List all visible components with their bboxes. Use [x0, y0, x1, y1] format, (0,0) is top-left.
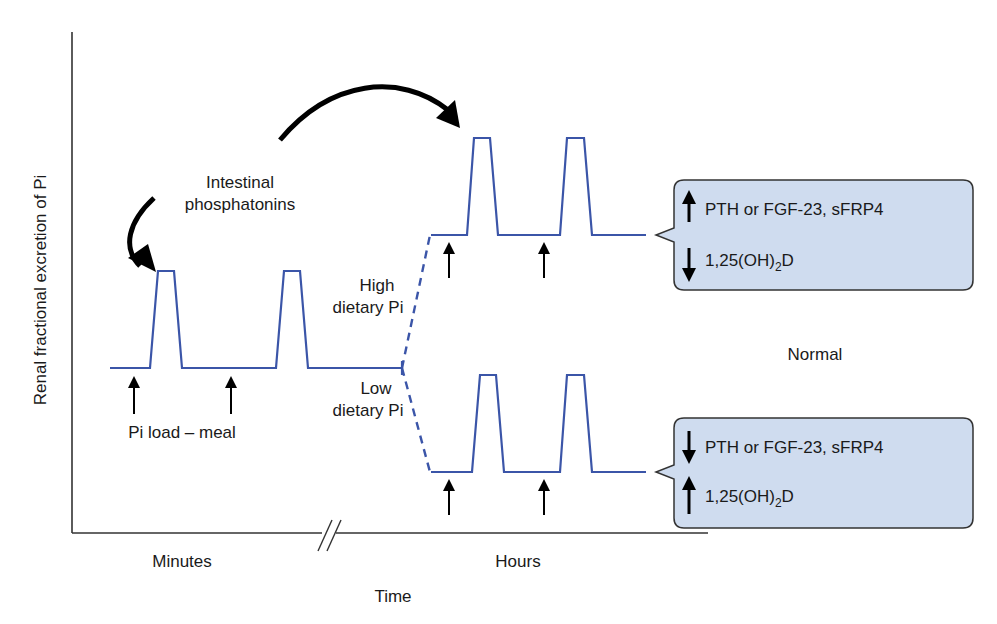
axis-break-icon [318, 520, 341, 551]
curved-arrow-icon [280, 87, 460, 140]
high-callout: PTH or FGF-23, sFRP4 1,25(OH)2D [656, 180, 973, 290]
callout-high-line1: PTH or FGF-23, sFRP4 [705, 200, 884, 219]
up-arrow-icon [443, 242, 455, 278]
high-branch-dashed [402, 235, 430, 368]
up-arrow-icon [538, 479, 550, 515]
low-branch-dashed [402, 368, 430, 472]
high-pi-label-2: dietary Pi [333, 298, 404, 317]
low-pi-label-1: Low [360, 379, 392, 398]
normal-label: Normal [788, 345, 843, 364]
low-pi-label-2: dietary Pi [333, 401, 404, 420]
curved-arrow-icon [128, 198, 156, 272]
low-callout: PTH or FGF-23, sFRP4 1,25(OH)2D [656, 418, 973, 528]
minutes-trace [110, 271, 402, 368]
x-axis-label: Time [374, 587, 411, 606]
callout-low-line1: PTH or FGF-23, sFRP4 [705, 438, 884, 457]
up-arrow-icon [225, 376, 237, 414]
x-label-hours: Hours [495, 552, 540, 571]
high-pi-label-1: High [360, 276, 395, 295]
x-label-minutes: Minutes [152, 552, 212, 571]
high-dietary-trace [431, 138, 646, 235]
up-arrow-icon [538, 242, 550, 278]
meal-arrows [128, 242, 550, 515]
up-arrow-icon [128, 376, 140, 414]
y-axis-label: Renal fractional excretion of Pi [31, 175, 50, 406]
low-dietary-trace [431, 375, 646, 472]
up-arrow-icon [443, 479, 455, 515]
phosphatonins-label-2: phosphatonins [185, 195, 296, 214]
phosphatonins-label-1: Intestinal [206, 173, 274, 192]
pi-load-label: Pi load – meal [128, 423, 236, 442]
phosphate-excretion-diagram: Renal fractional excretion of Pi Minutes… [0, 0, 997, 624]
